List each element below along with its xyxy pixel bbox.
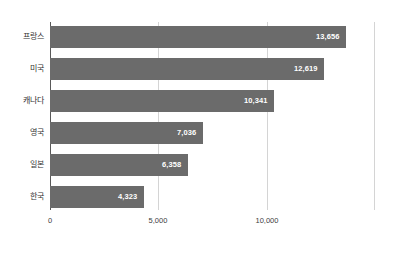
bar-row: 미국 12,619 [0,58,400,80]
bar-france [50,26,346,48]
bar-row: 캐나다 10,341 [0,90,400,112]
bar-value-france: 13,656 [316,26,340,48]
x-tick-label-0: 0 [48,216,52,225]
category-label-france: 프랑스 [0,26,44,48]
category-label-korea: 한국 [0,186,44,208]
category-label-usa: 미국 [0,58,44,80]
bar-chart: 프랑스 13,656 미국 12,619 캐나다 10,341 영국 7,036… [0,0,400,253]
category-label-canada: 캐나다 [0,90,44,112]
bar-value-canada: 10,341 [244,90,268,112]
bars-layer: 프랑스 13,656 미국 12,619 캐나다 10,341 영국 7,036… [0,0,400,253]
bar-canada [50,90,274,112]
bar-row: 영국 7,036 [0,122,400,144]
category-label-japan: 일본 [0,154,44,176]
bar-value-korea: 4,323 [118,186,137,208]
bar-value-usa: 12,619 [294,58,318,80]
bar-value-uk: 7,036 [177,122,196,144]
x-tick-label-5000: 5,000 [149,216,168,225]
bar-usa [50,58,324,80]
bar-value-japan: 6,358 [162,154,181,176]
bar-row: 일본 6,358 [0,154,400,176]
bar-row: 프랑스 13,656 [0,26,400,48]
x-tick-label-10000: 10,000 [256,216,279,225]
category-label-uk: 영국 [0,122,44,144]
bar-row: 한국 4,323 [0,186,400,208]
